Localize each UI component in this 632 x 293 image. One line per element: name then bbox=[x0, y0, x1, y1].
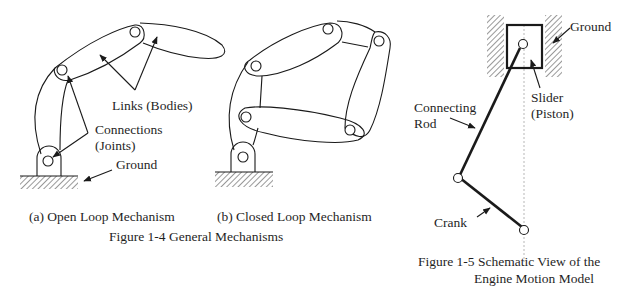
caption-figure-1-4: Figure 1-4 General Mechanisms bbox=[109, 229, 283, 245]
caption-figure-1-5-line2: Engine Motion Model bbox=[474, 271, 594, 287]
engine-model bbox=[450, 15, 570, 262]
label-connections: Connections bbox=[95, 122, 163, 137]
joint-b2 bbox=[323, 24, 333, 34]
label-slider: Slider bbox=[531, 90, 563, 105]
label-crank: Crank bbox=[434, 215, 467, 230]
label-piston: (Piston) bbox=[531, 106, 574, 121]
caption-figure-1-5-line1: Figure 1-5 Schematic View of the bbox=[418, 254, 600, 270]
wall-left bbox=[487, 15, 504, 77]
wall-right bbox=[545, 15, 562, 77]
label-ground-engine: Ground bbox=[570, 19, 611, 34]
label-rod: Rod bbox=[414, 116, 437, 131]
caption-closed-loop: (b) Closed Loop Mechanism bbox=[217, 209, 372, 225]
closed-loop-mechanism bbox=[215, 21, 390, 187]
ground-hatch-b bbox=[215, 172, 273, 187]
caption-open-loop: (a) Open Loop Mechanism bbox=[29, 209, 175, 225]
label-ground-a: Ground bbox=[116, 157, 157, 172]
joint-wrist-pin bbox=[519, 40, 528, 49]
joint-b4 bbox=[241, 112, 251, 122]
ground-hatch-a bbox=[20, 176, 78, 189]
label-connecting: Connecting bbox=[414, 100, 476, 115]
joint-3-a bbox=[130, 27, 140, 37]
joint-b3 bbox=[374, 36, 384, 46]
joint-b1 bbox=[251, 61, 261, 71]
joint-b5 bbox=[345, 125, 355, 135]
joint-crank-pin bbox=[454, 174, 463, 183]
crank bbox=[460, 178, 522, 227]
joint-crankshaft bbox=[520, 226, 529, 235]
link-3-a bbox=[140, 23, 225, 58]
joint-ground-a bbox=[43, 156, 53, 166]
label-links: Links (Bodies) bbox=[112, 98, 193, 113]
joint-ground-b bbox=[238, 152, 248, 162]
joint-2-a bbox=[57, 65, 67, 75]
label-joints: (Joints) bbox=[95, 138, 136, 153]
